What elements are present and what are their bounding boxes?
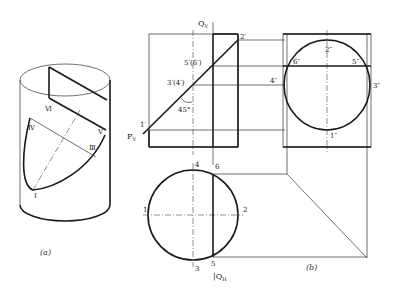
caption-a: (a)	[40, 248, 51, 257]
drawing-canvas: Ⅵ Ⅳ Ⅴ Ⅲ Ⅰ (a) QV 2′ 5′(6′) 3′(4′) 45° 1′…	[0, 0, 396, 294]
label-top-5: 5	[211, 260, 215, 268]
label-5-dprime: 5″	[352, 58, 359, 66]
label-3-4-prime: 3′(4′)	[167, 79, 185, 87]
caption-b: (b)	[306, 263, 317, 272]
label-1-dprime: 1″	[330, 132, 337, 140]
label-I: Ⅰ	[34, 192, 37, 200]
cylinder-bottom-arc	[20, 205, 110, 221]
label-top-4: 4	[195, 161, 200, 169]
side-view: 2″ 6″ 5″ 4″ 3″ 1″	[270, 30, 380, 258]
label-top-1: 1	[143, 206, 147, 214]
cylinder-top-ellipse	[20, 64, 110, 96]
label-Qh: |QH	[213, 272, 227, 282]
angle-arc	[181, 98, 192, 102]
label-top-2: 2	[243, 206, 247, 214]
label-2-prime: 2′	[240, 33, 246, 41]
label-top-6: 6	[215, 163, 220, 171]
label-4-dprime: 4″	[270, 77, 277, 85]
label-IV: Ⅳ	[28, 124, 36, 132]
section-ellipse	[24, 118, 105, 190]
plane-P-trace	[143, 40, 238, 134]
label-III: Ⅲ	[89, 144, 96, 152]
label-3-dprime: 3″	[373, 82, 380, 90]
label-2-dprime: 2″	[325, 46, 332, 54]
label-45deg: 45°	[178, 106, 190, 114]
top-view: 4 6 1 2 3 5 |QH (b)	[143, 161, 367, 282]
miter-line	[287, 174, 367, 258]
label-VI: Ⅵ	[44, 105, 52, 113]
label-6-dprime: 6″	[293, 58, 300, 66]
axis-line	[33, 110, 80, 190]
label-Qv: QV	[198, 19, 209, 29]
label-5-6-prime: 5′(6′)	[184, 59, 202, 67]
line-IV-III	[30, 118, 96, 157]
front-view: QV 2′ 5′(6′) 3′(4′) 45° 1′ PV	[127, 19, 285, 165]
label-1-prime: 1′	[140, 121, 146, 129]
figure-a-cylinder: Ⅵ Ⅳ Ⅴ Ⅲ Ⅰ (a)	[20, 64, 110, 257]
label-V: Ⅴ	[97, 128, 104, 136]
label-Pv: PV	[127, 132, 136, 142]
label-top-3: 3	[195, 265, 199, 273]
